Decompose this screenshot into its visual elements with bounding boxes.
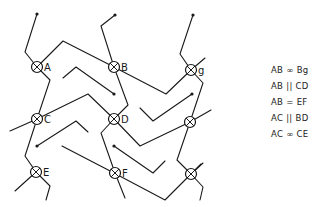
node-r2 xyxy=(186,169,197,180)
connection-line xyxy=(62,146,203,200)
node-label: F xyxy=(122,168,128,179)
node-e: E xyxy=(31,167,50,179)
connection-line xyxy=(63,67,114,94)
node-b: B xyxy=(109,62,129,74)
node-label: g xyxy=(198,65,204,76)
legend-row-ab-cd: AB || CD xyxy=(271,78,331,94)
node-label: D xyxy=(121,114,129,125)
node-c: C xyxy=(32,114,52,126)
legend-row-ac-bd: AC || BD xyxy=(271,110,331,126)
endpoint-dot xyxy=(112,92,115,95)
legend-row-ab-ef: AB = EF xyxy=(271,94,331,110)
endpoint-dot xyxy=(191,13,194,16)
node-a: A xyxy=(32,62,52,74)
node-r1 xyxy=(185,117,196,128)
endpoint-dot xyxy=(112,144,115,147)
legend-row-ab-bg: AB ∞ Bg xyxy=(271,62,331,78)
legend-row-ac-ce: AC ∞ CE xyxy=(271,126,331,142)
node-f: F xyxy=(110,168,129,180)
line-endpoints xyxy=(35,12,194,147)
node-label: A xyxy=(44,62,51,73)
node-label: B xyxy=(121,62,128,73)
node-g: g xyxy=(186,65,205,77)
relations-legend: AB ∞ Bg AB || CD AB = EF AC || BD AC ∞ C… xyxy=(271,62,331,142)
endpoint-dot xyxy=(35,144,38,147)
node-label: C xyxy=(44,114,51,125)
endpoint-dot xyxy=(113,13,116,16)
endpoint-dot xyxy=(190,92,193,95)
connection-line xyxy=(140,94,192,121)
endpoint-dot xyxy=(35,12,38,15)
node-label: E xyxy=(43,167,49,178)
